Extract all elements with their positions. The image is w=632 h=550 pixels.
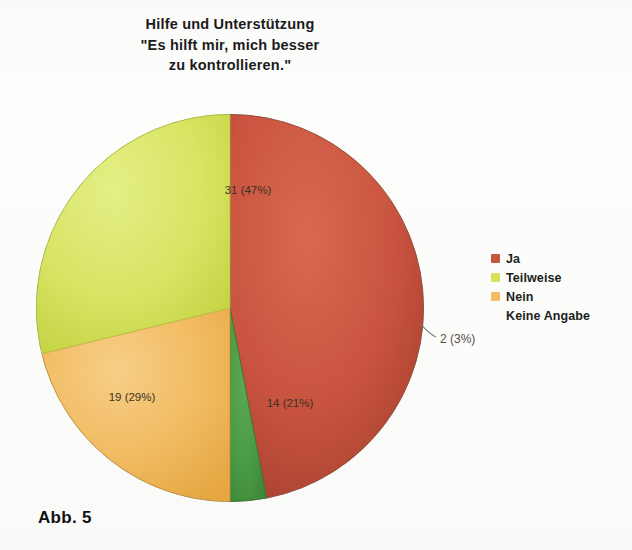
- pie-label-ja: 31 (47%): [225, 184, 272, 196]
- legend-item-teilweise[interactable]: Teilweise: [491, 268, 626, 287]
- legend-swatch-ja: [491, 254, 500, 263]
- legend-label-nein: Nein: [506, 290, 534, 304]
- pie-label-nein: 14 (21%): [267, 397, 314, 409]
- figure-caption: Abb. 5: [38, 508, 92, 528]
- figure-container: Hilfe und Unterstützung "Es hilft mir, m…: [0, 0, 632, 550]
- pie-slice-ja[interactable]: [230, 115, 423, 499]
- legend-item-ja[interactable]: Ja: [491, 249, 626, 268]
- legend: Ja Teilweise Nein Keine Angabe: [491, 249, 626, 325]
- legend-swatch-nein: [491, 292, 500, 301]
- legend-item-nein[interactable]: Nein: [491, 287, 626, 306]
- legend-label-keine-angabe: Keine Angabe: [506, 309, 590, 323]
- pie-label-teilweise: 19 (29%): [109, 391, 156, 403]
- legend-swatch-teilweise: [491, 273, 500, 282]
- legend-item-keine-angabe[interactable]: Keine Angabe: [491, 306, 626, 325]
- legend-swatch-keine-angabe: [491, 311, 500, 320]
- legend-label-ja: Ja: [506, 252, 520, 266]
- legend-label-teilweise: Teilweise: [506, 271, 562, 285]
- pie-label-keine-angabe: 2 (3%): [440, 332, 475, 346]
